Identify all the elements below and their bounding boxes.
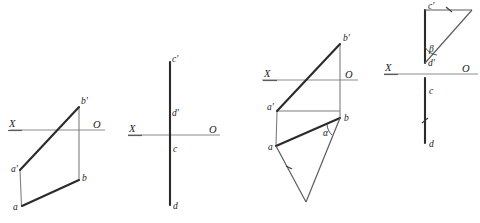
panel-3-label-a: a <box>268 142 273 152</box>
panel-3-label-a-prime: a' <box>267 102 275 112</box>
figure-root: X O b' a' b a X O c' d' c <box>0 0 480 223</box>
panel-2-label-c: c <box>173 144 178 154</box>
panel-1-segment-a-prime-b-prime <box>20 107 79 170</box>
panel-1-label-b-prime: b' <box>81 96 89 106</box>
panel-1-segment-a-b <box>22 180 79 206</box>
panel-4-label-c: c <box>429 86 434 96</box>
panel-4-axis-label-o: O <box>462 63 470 74</box>
panel-1-group: X O b' a' b a <box>8 96 105 212</box>
panel-2-label-d: d <box>173 201 178 211</box>
panel-3-group: X O b' a' b a α <box>262 33 358 202</box>
panel-2-group: X O c' d' c d <box>128 54 220 211</box>
panel-3-axis-label-x: X <box>263 68 271 79</box>
panel-1-label-a-prime: a' <box>11 164 19 174</box>
panel-1-label-a: a <box>13 202 18 212</box>
panel-3-connector-a <box>276 111 277 146</box>
panel-4-angle-label-beta: β <box>428 44 434 54</box>
panel-1-axis-label-x: X <box>8 118 16 129</box>
panel-3-segment-a-prime-b-prime <box>277 44 340 111</box>
panel-2-label-c-prime: c' <box>172 54 179 64</box>
panel-4-group: X O c' d' c d β <box>384 1 478 149</box>
panel-1-connector-a <box>20 170 22 206</box>
panel-4-label-d: d <box>429 139 434 149</box>
panel-2-axis-label-x: X <box>128 123 136 134</box>
panel-3-label-b-prime: b' <box>343 33 351 43</box>
panel-3-axis-label-o: O <box>345 69 353 80</box>
panel-4-label-c-prime: c' <box>428 1 435 11</box>
panel-1-label-b: b <box>82 173 87 183</box>
panel-1-axis-label-o: O <box>93 119 101 130</box>
panel-2-label-d-prime: d' <box>172 108 180 118</box>
panel-3-label-b: b <box>344 113 349 123</box>
panel-3-triangle-left-leg <box>276 146 306 202</box>
panel-2-axis-label-o: O <box>209 124 217 135</box>
panel-4-label-d-prime: d' <box>428 58 436 68</box>
geometry-canvas: X O b' a' b a X O c' d' c <box>0 0 480 223</box>
panel-4-axis-label-x: X <box>384 62 392 73</box>
panel-4-triangle-hypotenuse <box>425 10 472 63</box>
